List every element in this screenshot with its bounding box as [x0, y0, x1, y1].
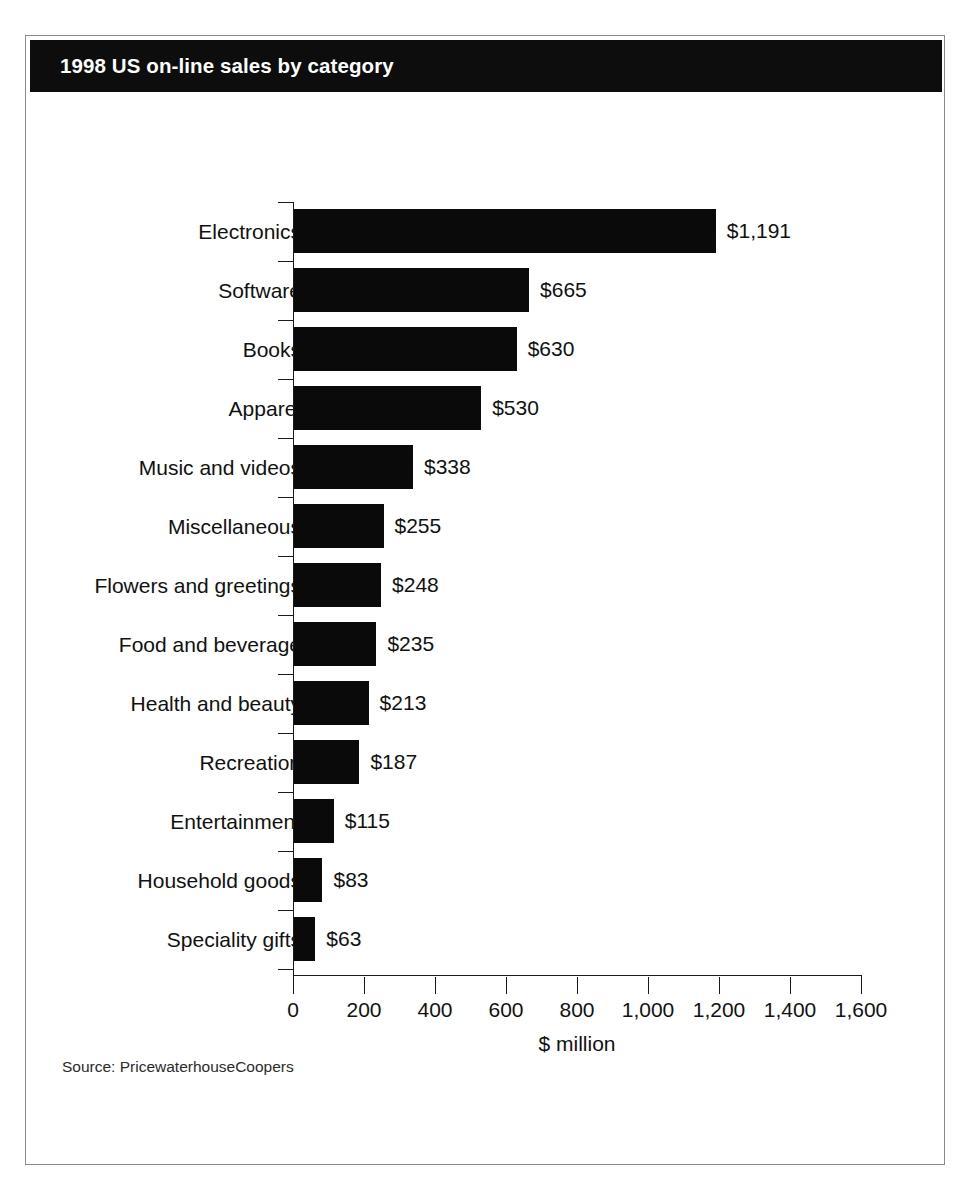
bar: [293, 681, 369, 725]
value-axis-tick-label: 1,000: [622, 998, 675, 1022]
bar: [293, 386, 481, 430]
value-axis-line: [293, 975, 861, 976]
bar-value-label: $83: [333, 858, 368, 902]
category-label: Electronics: [198, 202, 301, 261]
category-label: Speciality gifts: [167, 910, 301, 969]
x-axis-title: $ million: [293, 1032, 861, 1056]
category-axis-line: [293, 202, 294, 975]
bar: [293, 445, 413, 489]
value-axis-tick: [648, 977, 649, 994]
bar-value-label: $338: [424, 445, 471, 489]
value-axis-tick: [577, 977, 578, 994]
category-label: Music and videos: [139, 438, 301, 497]
bar-row: Electronics$1,191: [26, 202, 944, 261]
bar-row: Food and beverage$235: [26, 615, 944, 674]
page-title: 1998 US on-line sales by category: [30, 54, 394, 78]
bar-row: Apparel$530: [26, 379, 944, 438]
bar-value-label: $530: [492, 386, 539, 430]
bar-row: Music and videos$338: [26, 438, 944, 497]
bar-value-label: $235: [387, 622, 434, 666]
bar-value-label: $187: [370, 740, 417, 784]
value-axis-tick: [364, 977, 365, 994]
chart-title-band: 1998 US on-line sales by category: [30, 40, 942, 92]
bar-chart: Electronics$1,191Software$665Books$630Ap…: [26, 92, 944, 1164]
bar-row: Books$630: [26, 320, 944, 379]
bar: [293, 209, 716, 253]
bar-row: Health and beauty$213: [26, 674, 944, 733]
category-label: Food and beverage: [119, 615, 301, 674]
bar: [293, 563, 381, 607]
bar: [293, 799, 334, 843]
value-axis-tick: [719, 977, 720, 994]
category-label: Software: [218, 261, 301, 320]
bar-row: Recreation$187: [26, 733, 944, 792]
category-label: Flowers and greetings: [94, 556, 301, 615]
bar: [293, 740, 359, 784]
category-label: Recreation: [199, 733, 301, 792]
bar-row: Flowers and greetings$248: [26, 556, 944, 615]
source-note: Source: PricewaterhouseCoopers: [62, 1058, 294, 1076]
bar-value-label: $213: [380, 681, 427, 725]
bar-value-label: $63: [326, 917, 361, 961]
value-axis-tick-label: 1,200: [693, 998, 746, 1022]
bar-row: Miscellaneous$255: [26, 497, 944, 556]
category-label: Miscellaneous: [168, 497, 301, 556]
bar: [293, 858, 322, 902]
bar: [293, 622, 376, 666]
bar-row: Household goods$83: [26, 851, 944, 910]
bar: [293, 917, 315, 961]
bar-value-label: $630: [528, 327, 575, 371]
bar-value-label: $115: [345, 799, 390, 843]
bar-value-label: $255: [395, 504, 442, 548]
value-axis-tick-label: 1,600: [835, 998, 888, 1022]
value-axis-tick: [506, 977, 507, 994]
value-axis-tick-label: 800: [559, 998, 594, 1022]
value-axis-tick: [435, 977, 436, 994]
category-label: Apparel: [229, 379, 301, 438]
category-tick: [278, 969, 293, 970]
bar: [293, 268, 529, 312]
category-label: Health and beauty: [131, 674, 301, 733]
bar: [293, 327, 517, 371]
bar-value-label: $248: [392, 563, 439, 607]
value-axis-tick-label: 200: [346, 998, 381, 1022]
bar-row: Entertainment$115: [26, 792, 944, 851]
value-axis-tick-label: 600: [488, 998, 523, 1022]
bar: [293, 504, 384, 548]
category-label: Entertainment: [170, 792, 301, 851]
category-label: Household goods: [138, 851, 301, 910]
bar-row: Speciality gifts$63: [26, 910, 944, 969]
value-axis-tick-label: 1,400: [764, 998, 817, 1022]
value-axis-tick-label: 0: [287, 998, 299, 1022]
bar-value-label: $1,191: [727, 209, 791, 253]
value-axis-tick: [861, 977, 862, 994]
value-axis-tick-label: 400: [417, 998, 452, 1022]
bar-value-label: $665: [540, 268, 587, 312]
bar-row: Software$665: [26, 261, 944, 320]
value-axis-tick: [790, 977, 791, 994]
figure-frame: 1998 US on-line sales by category Electr…: [25, 35, 945, 1165]
value-axis-tick: [293, 977, 294, 994]
